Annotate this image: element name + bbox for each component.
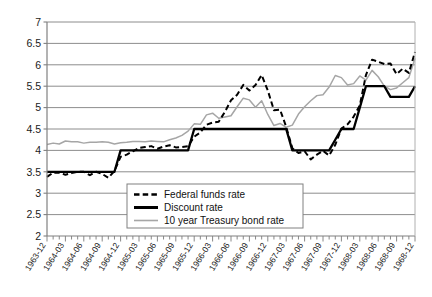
line-chart: 22.533.544.555.566.57 1963-121964-031964…	[0, 0, 432, 297]
y-tick-label: 6	[35, 59, 41, 71]
y-tick-label: 5	[35, 101, 41, 113]
chart-container: 22.533.544.555.566.57 1963-121964-031964…	[0, 0, 432, 297]
y-tick-label: 3	[35, 187, 41, 199]
x-axis-tick-marks	[47, 236, 415, 242]
y-tick-label: 2	[35, 230, 41, 242]
legend-label-10-year-treasury-bond-rate: 10 year Treasury bond rate	[164, 215, 285, 226]
y-tick-label: 6.5	[26, 37, 41, 49]
legend-label-federal-funds-rate: Federal funds rate	[164, 189, 246, 200]
data-series-layer	[47, 52, 415, 178]
y-tick-label: 4	[35, 144, 41, 156]
legend: Federal funds rateDiscount rate10 year T…	[127, 184, 303, 228]
y-tick-label: 3.5	[26, 166, 41, 178]
y-tick-label: 2.5	[26, 208, 41, 220]
y-tick-label: 5.5	[26, 80, 41, 92]
legend-label-discount-rate: Discount rate	[164, 202, 223, 213]
y-tick-label: 7	[35, 16, 41, 28]
y-tick-label: 4.5	[26, 123, 41, 135]
x-axis-tick-labels: 1963-121964-031964-061964-091964-121965-…	[23, 241, 416, 273]
y-axis-tick-labels: 22.533.544.555.566.57	[26, 16, 41, 242]
